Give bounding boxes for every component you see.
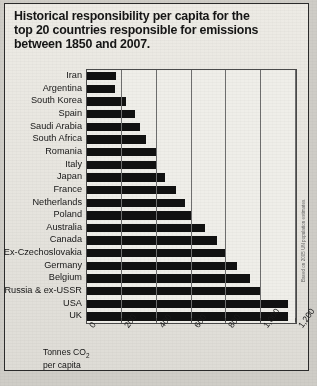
bar-argentina xyxy=(87,85,115,93)
category-label: Netherlands xyxy=(32,196,82,209)
axis-caption: Tonnes CO2per capita xyxy=(43,348,90,370)
bar-row xyxy=(87,184,296,197)
bar-row xyxy=(87,95,296,108)
bar-russia-ex-ussr xyxy=(87,287,261,295)
category-label: Poland xyxy=(53,208,82,221)
bar-saudi-arabia xyxy=(87,123,140,131)
chart-panel: Historical responsibility per capita for… xyxy=(4,3,309,371)
category-label: Japan xyxy=(57,170,82,183)
category-label: Ex-Czechoslovakia xyxy=(4,246,82,259)
bar-usa xyxy=(87,300,288,308)
category-label: South Africa xyxy=(32,132,82,145)
category-label: Argentina xyxy=(43,82,82,95)
category-label: UK xyxy=(69,309,82,322)
bar-south-africa xyxy=(87,135,146,143)
bar-netherlands xyxy=(87,199,185,207)
bar-row xyxy=(87,146,296,159)
axis-caption-subscript: 2 xyxy=(86,352,90,359)
axis-tick-mark xyxy=(260,318,261,322)
axis-tick-mark xyxy=(295,318,296,322)
bar-row xyxy=(87,159,296,172)
axis-tick-label: 0 xyxy=(87,320,98,330)
category-label: Italy xyxy=(65,158,82,171)
category-label: Romania xyxy=(45,145,82,158)
category-label: Belgium xyxy=(49,271,82,284)
gridline xyxy=(156,70,157,323)
bar-uk xyxy=(87,312,288,320)
axis-caption-text2: per capita xyxy=(43,360,81,370)
bar-row xyxy=(87,133,296,146)
category-label: Russia & ex-USSR xyxy=(4,284,82,297)
gridline xyxy=(121,70,122,323)
bar-row xyxy=(87,247,296,260)
axis-tick-mark xyxy=(191,318,192,322)
bar-canada xyxy=(87,236,217,244)
bar-row xyxy=(87,70,296,83)
bar-row xyxy=(87,209,296,222)
bar-spain xyxy=(87,110,135,118)
bar-japan xyxy=(87,173,165,181)
source-note: Based on 2005 UN population estimates. xyxy=(301,198,306,282)
axis-tick-mark xyxy=(156,318,157,322)
category-label: South Korea xyxy=(31,94,82,107)
bar-row xyxy=(87,197,296,210)
bar-rows xyxy=(87,70,296,323)
category-label: Saudi Arabia xyxy=(30,120,82,133)
gridline xyxy=(295,70,296,323)
bar-row xyxy=(87,260,296,273)
bar-row xyxy=(87,108,296,121)
bar-row xyxy=(87,285,296,298)
bar-australia xyxy=(87,224,205,232)
bar-italy xyxy=(87,161,157,169)
bar-poland xyxy=(87,211,192,219)
bar-row xyxy=(87,171,296,184)
category-label: France xyxy=(53,183,82,196)
category-label: Canada xyxy=(50,233,82,246)
axis-caption-text: Tonnes CO xyxy=(43,347,86,357)
bar-row xyxy=(87,298,296,311)
category-label: Australia xyxy=(46,221,82,234)
bar-iran xyxy=(87,72,116,80)
category-axis-labels: IranArgentinaSouth KoreaSpainSaudi Arabi… xyxy=(5,69,84,322)
bar-row xyxy=(87,272,296,285)
bar-france xyxy=(87,186,176,194)
category-label: USA xyxy=(63,297,82,310)
category-label: Germany xyxy=(44,259,82,272)
plot-area xyxy=(86,69,297,324)
bar-row xyxy=(87,222,296,235)
category-label: Spain xyxy=(59,107,83,120)
category-label: Iran xyxy=(66,69,82,82)
axis-tick-mark xyxy=(86,318,87,322)
bar-row xyxy=(87,83,296,96)
gridline xyxy=(225,70,226,323)
page-title: Historical responsibility per capita for… xyxy=(14,9,292,52)
gridline xyxy=(260,70,261,323)
bar-germany xyxy=(87,262,237,270)
axis-tick-mark xyxy=(121,318,122,322)
chart-page: Historical responsibility per capita for… xyxy=(0,0,317,386)
bar-row xyxy=(87,234,296,247)
gridline xyxy=(191,70,192,323)
bar-row xyxy=(87,121,296,134)
